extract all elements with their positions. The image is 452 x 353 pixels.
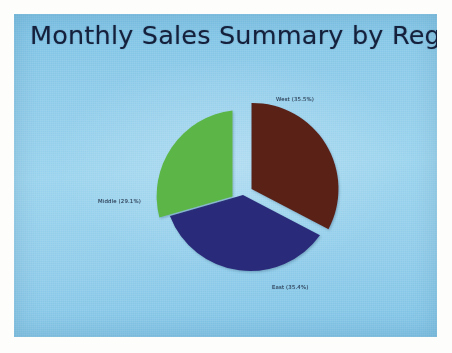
pie-label-west: West (35.5%)	[276, 96, 314, 102]
pie-label-middle: Middle (29.1%)	[98, 198, 141, 204]
pie-chart: West (35.5%) East (35.4%) Middle (29.1%)	[14, 14, 437, 337]
pie-label-east: East (35.4%)	[272, 284, 308, 290]
slide-canvas: Monthly Sales Summary by Region West (35…	[14, 14, 437, 337]
page-title: Monthly Sales Summary by Region	[30, 20, 430, 50]
pie-chart-svg	[14, 14, 437, 337]
